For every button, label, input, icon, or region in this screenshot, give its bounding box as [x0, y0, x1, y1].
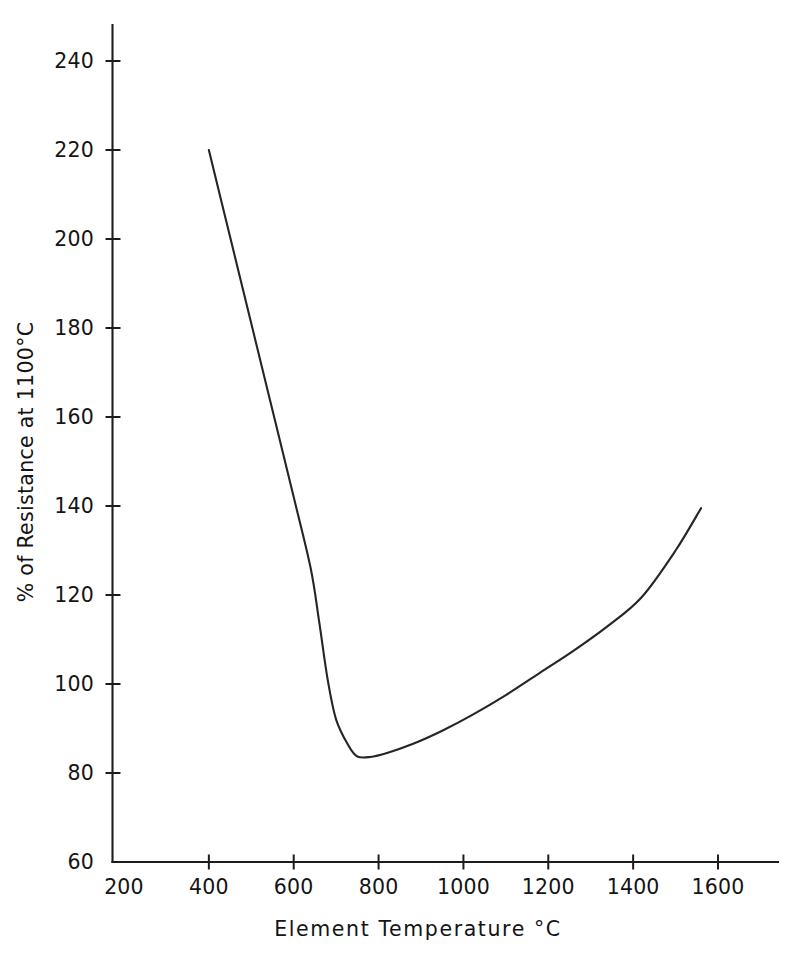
x-axis-group: 2004006008001000120014001600 — [104, 855, 778, 900]
y-axis-tick-label: 240 — [54, 49, 94, 73]
x-axis-title: Element Temperature °C — [274, 917, 562, 941]
y-axis-tick-label: 60 — [68, 850, 95, 874]
y-axis-tick-label: 120 — [54, 583, 94, 607]
resistance-temperature-chart: 6080100120140160180200220240 20040060080… — [0, 0, 809, 967]
x-axis-tick-label: 200 — [104, 875, 144, 899]
y-axis-tick-labels: 6080100120140160180200220240 — [54, 49, 94, 874]
y-axis-tick-label: 180 — [54, 316, 94, 340]
y-axis-title: % of Resistance at 1100°C — [14, 322, 38, 603]
y-axis-tick-label: 220 — [54, 138, 94, 162]
y-axis-tick-label: 100 — [54, 672, 94, 696]
x-axis-tick-label: 1600 — [692, 875, 745, 899]
y-axis-group: 6080100120140160180200220240 — [54, 25, 120, 874]
y-axis-tick-label: 80 — [68, 761, 95, 785]
x-axis-tick-label: 1000 — [437, 875, 490, 899]
resistance-curve — [209, 150, 701, 758]
chart-page: 6080100120140160180200220240 20040060080… — [0, 0, 809, 967]
x-axis-tick-label: 1400 — [607, 875, 660, 899]
x-axis-tick-label: 800 — [359, 875, 399, 899]
x-axis-tick-label: 1200 — [522, 875, 575, 899]
y-axis-tick-label: 160 — [54, 405, 94, 429]
x-axis-tick-labels: 2004006008001000120014001600 — [104, 875, 744, 899]
y-axis-tick-label: 200 — [54, 227, 94, 251]
x-axis-tick-label: 600 — [274, 875, 314, 899]
y-axis-tick-label: 140 — [54, 494, 94, 518]
x-axis-tick-label: 400 — [189, 875, 229, 899]
